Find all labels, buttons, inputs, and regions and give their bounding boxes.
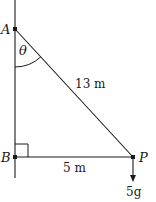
point-b-dot <box>13 155 17 159</box>
diagram-canvas: A B P θ 13 m 5 m 5g <box>0 0 156 202</box>
label-theta: θ <box>19 43 27 58</box>
label-base: 5 m <box>63 161 86 175</box>
label-a: A <box>0 22 10 37</box>
hypotenuse-line <box>15 29 133 157</box>
label-b: B <box>0 150 11 165</box>
label-p: P <box>138 150 148 165</box>
arrow-down-icon <box>130 175 136 182</box>
angle-arc <box>15 57 41 67</box>
label-force: 5g <box>126 185 142 199</box>
label-hypotenuse: 13 m <box>75 77 106 91</box>
point-a-dot <box>13 27 17 31</box>
